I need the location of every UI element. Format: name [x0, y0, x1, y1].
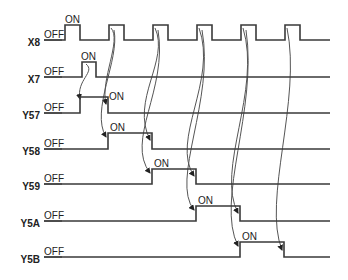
on-label: ON: [109, 91, 124, 102]
signal-name-x7: X7: [28, 74, 41, 85]
off-label: OFF: [44, 138, 64, 149]
causal-arrows: [79, 28, 290, 250]
on-label: ON: [198, 195, 213, 206]
arrow-5: [187, 28, 203, 176]
waveform-x8: [44, 25, 330, 40]
on-label: ON: [65, 14, 80, 25]
on-label: ON: [110, 122, 125, 133]
signal-name-y59: Y59: [22, 181, 40, 192]
on-label: ON: [242, 231, 257, 242]
off-label: OFF: [44, 29, 64, 40]
on-label: ON: [154, 158, 169, 169]
arrow-3: [144, 28, 158, 140]
waveform-y5b: [44, 242, 330, 257]
arrow-9: [276, 28, 290, 250]
off-label: OFF: [44, 173, 64, 184]
signal-name-y58: Y58: [22, 146, 40, 157]
signal-name-y5b: Y5B: [21, 254, 40, 265]
off-label: OFF: [44, 66, 64, 77]
signal-labels: X8OFFONX7OFFONY57OFFONY58OFFONY59OFFONY5…: [21, 14, 257, 265]
waveform-y5a: [44, 206, 330, 221]
signal-name-y5a: Y5A: [21, 218, 40, 229]
on-label: ON: [81, 51, 96, 62]
arrow-2: [101, 30, 115, 137]
off-label: OFF: [44, 246, 64, 257]
off-label: OFF: [44, 210, 64, 221]
signal-name-x8: X8: [28, 37, 41, 48]
arrow-0: [79, 64, 88, 99]
off-label: OFF: [44, 102, 64, 113]
timing-diagram: X8OFFONX7OFFONY57OFFONY58OFFONY59OFFONY5…: [0, 0, 348, 280]
arrow-7: [232, 28, 248, 213]
signal-name-y57: Y57: [22, 110, 40, 121]
arrow-4: [142, 30, 159, 173]
